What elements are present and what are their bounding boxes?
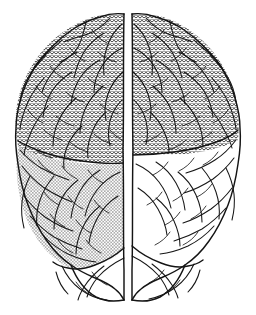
brain-illustration	[0, 0, 256, 315]
longitudinal-fissure-right-edge	[132, 14, 133, 300]
longitudinal-fissure-left-edge	[123, 14, 124, 300]
brain-figure: Human brain, superior (dorsal) view	[0, 0, 256, 315]
